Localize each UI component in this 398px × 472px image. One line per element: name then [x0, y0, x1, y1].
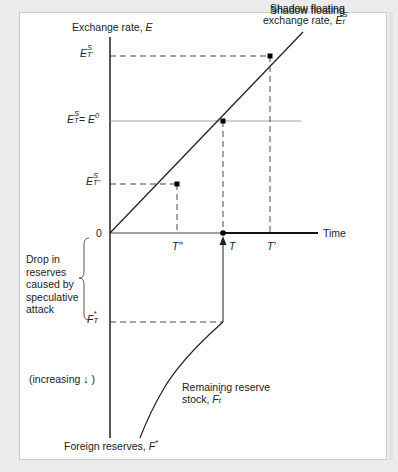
- time-axis-label: Time: [323, 227, 346, 239]
- shadow-rate-line: [110, 32, 303, 233]
- arrow-head-icon: [220, 236, 227, 245]
- tick-e-t-equals-e0: EST= E0: [67, 113, 99, 127]
- point-T: [221, 119, 226, 124]
- shadow-rate-label-line2: exchange rate, ESt: [263, 14, 347, 28]
- shadow-rate-label-line1: Shadow floating: [270, 2, 345, 14]
- foreign-reserves-axis-label: Foreign reserves, F*: [64, 440, 158, 453]
- point-T-double-prime: [175, 182, 180, 187]
- point-T-time-axis: [220, 230, 226, 236]
- tick-e-t-prime: EST': [80, 47, 93, 61]
- remaining-reserve-curve: [140, 322, 223, 438]
- dashed-guides: [110, 56, 270, 322]
- increasing-label: (increasing ↓ ): [29, 373, 95, 385]
- remaining-reserve-label-line2: stock, F*t: [182, 393, 222, 407]
- remaining-reserve-label-line1: Remaining reserve: [182, 381, 270, 393]
- tick-f-t-star: F*T: [87, 313, 98, 327]
- origin-label: 0: [96, 227, 102, 239]
- point-T-prime: [268, 54, 273, 59]
- drop-in-reserves-label: Drop in reserves caused by speculative a…: [26, 253, 79, 316]
- tick-e-t-double-prime: EST": [86, 175, 100, 189]
- time-tick-t-double-prime: T": [172, 240, 182, 252]
- time-tick-t: T: [229, 240, 235, 252]
- time-tick-t-prime: T': [267, 240, 275, 252]
- drop-brace: [79, 238, 89, 320]
- y-axis-title: Exchange rate, E: [72, 21, 153, 33]
